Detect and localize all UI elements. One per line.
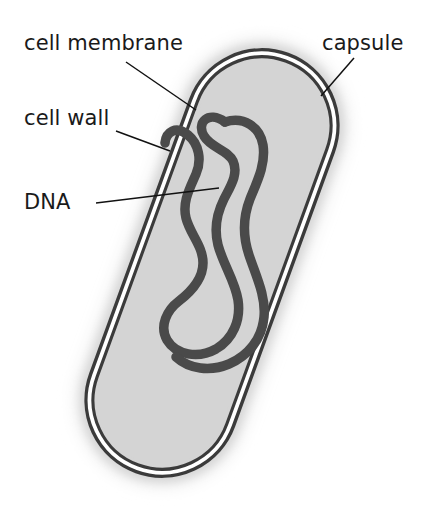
label-dna: DNA — [24, 192, 71, 213]
label-capsule: capsule — [322, 33, 403, 54]
label-cell-membrane: cell membrane — [24, 33, 183, 54]
bacterial-cell-diagram: cell membrane cell wall DNA capsule — [0, 0, 425, 512]
cell-illustration — [0, 0, 425, 512]
label-cell-wall: cell wall — [24, 108, 109, 129]
cell-membrane-leader-line — [126, 62, 196, 110]
cell-membrane-layer — [74, 37, 351, 488]
cytoplasm — [79, 43, 344, 483]
